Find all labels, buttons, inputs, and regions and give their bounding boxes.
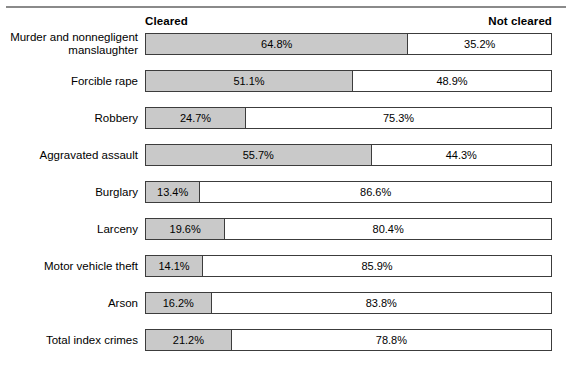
chart-row: Arson16.2%83.8% xyxy=(0,292,572,314)
category-label: Aggravated assault xyxy=(0,149,138,162)
stacked-bar: 64.8%35.2% xyxy=(145,33,552,55)
stacked-bar: 14.1%85.9% xyxy=(145,255,552,277)
chart-row: Motor vehicle theft14.1%85.9% xyxy=(0,255,572,277)
bar-value-not-cleared: 48.9% xyxy=(436,76,467,87)
category-label: Arson xyxy=(0,297,138,310)
bar-value-not-cleared: 86.6% xyxy=(360,187,391,198)
bar-segment-not-cleared: 80.4% xyxy=(225,219,551,239)
bar-segment-not-cleared: 83.8% xyxy=(212,293,551,313)
bar-value-not-cleared: 80.4% xyxy=(373,224,404,235)
top-divider-rule xyxy=(6,6,566,8)
stacked-bar: 21.2%78.8% xyxy=(145,329,552,351)
bar-segment-cleared: 14.1% xyxy=(146,256,203,276)
bar-segment-not-cleared: 85.9% xyxy=(203,256,551,276)
category-label: Burglary xyxy=(0,186,138,199)
bar-segment-not-cleared: 78.8% xyxy=(232,330,551,350)
category-label: Murder and nonnegligent manslaughter xyxy=(0,31,138,57)
bar-segment-not-cleared: 35.2% xyxy=(408,34,551,54)
category-label: Total index crimes xyxy=(0,334,138,347)
stacked-bar: 55.7%44.3% xyxy=(145,144,552,166)
chart-row: Aggravated assault55.7%44.3% xyxy=(0,144,572,166)
clearance-rate-chart: Cleared Not cleared Murder and nonneglig… xyxy=(0,0,572,374)
bar-segment-cleared: 55.7% xyxy=(146,145,372,165)
bar-segment-cleared: 51.1% xyxy=(146,71,353,91)
bar-value-not-cleared: 78.8% xyxy=(376,335,407,346)
bar-segment-cleared: 13.4% xyxy=(146,182,200,202)
bar-value-cleared: 13.4% xyxy=(157,187,188,198)
chart-row: Total index crimes21.2%78.8% xyxy=(0,329,572,351)
bar-value-not-cleared: 75.3% xyxy=(383,113,414,124)
bar-value-not-cleared: 44.3% xyxy=(446,150,477,161)
bar-value-not-cleared: 35.2% xyxy=(464,39,495,50)
stacked-bar: 51.1%48.9% xyxy=(145,70,552,92)
bar-segment-cleared: 64.8% xyxy=(146,34,408,54)
bar-segment-cleared: 19.6% xyxy=(146,219,225,239)
bar-value-not-cleared: 83.8% xyxy=(366,298,397,309)
bar-segment-not-cleared: 44.3% xyxy=(372,145,551,165)
category-label: Forcible rape xyxy=(0,75,138,88)
bar-segment-cleared: 16.2% xyxy=(146,293,212,313)
category-label: Motor vehicle theft xyxy=(0,260,138,273)
bar-value-cleared: 16.2% xyxy=(163,298,194,309)
bar-value-cleared: 19.6% xyxy=(170,224,201,235)
chart-row: Larceny19.6%80.4% xyxy=(0,218,572,240)
bar-value-cleared: 21.2% xyxy=(173,335,204,346)
bar-value-cleared: 55.7% xyxy=(243,150,274,161)
stacked-bar: 19.6%80.4% xyxy=(145,218,552,240)
chart-row: Murder and nonnegligent manslaughter64.8… xyxy=(0,33,572,55)
bar-value-cleared: 64.8% xyxy=(261,39,292,50)
chart-row: Robbery24.7%75.3% xyxy=(0,107,572,129)
stacked-bar: 24.7%75.3% xyxy=(145,107,552,129)
bar-value-not-cleared: 85.9% xyxy=(361,261,392,272)
chart-rows: Murder and nonnegligent manslaughter64.8… xyxy=(0,33,572,366)
category-label: Larceny xyxy=(0,223,138,236)
bar-value-cleared: 24.7% xyxy=(180,113,211,124)
legend-label-cleared: Cleared xyxy=(145,13,188,29)
bar-segment-cleared: 21.2% xyxy=(146,330,232,350)
legend-label-not-cleared: Not cleared xyxy=(488,13,552,29)
stacked-bar: 16.2%83.8% xyxy=(145,292,552,314)
category-label: Robbery xyxy=(0,112,138,125)
bar-value-cleared: 14.1% xyxy=(158,261,189,272)
bar-segment-not-cleared: 48.9% xyxy=(353,71,551,91)
stacked-bar: 13.4%86.6% xyxy=(145,181,552,203)
bar-segment-not-cleared: 86.6% xyxy=(200,182,551,202)
chart-legend: Cleared Not cleared xyxy=(145,13,552,29)
chart-row: Burglary13.4%86.6% xyxy=(0,181,572,203)
bar-value-cleared: 51.1% xyxy=(233,76,264,87)
bar-segment-cleared: 24.7% xyxy=(146,108,246,128)
bar-segment-not-cleared: 75.3% xyxy=(246,108,551,128)
chart-row: Forcible rape51.1%48.9% xyxy=(0,70,572,92)
